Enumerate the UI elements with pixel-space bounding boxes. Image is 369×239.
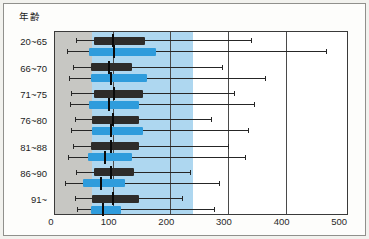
whisker-cap — [228, 144, 229, 149]
box-blue — [91, 206, 122, 214]
whisker-cap — [68, 155, 69, 160]
median-tick — [108, 61, 110, 74]
category-label: 66~70 — [7, 63, 47, 74]
gridline — [228, 32, 229, 214]
whisker-cap — [65, 181, 66, 186]
whisker-cap — [73, 65, 74, 70]
whisker-cap — [245, 155, 246, 160]
median-tick — [110, 140, 112, 153]
category-label: 86~90 — [7, 168, 47, 179]
box-black — [94, 90, 144, 98]
whisker-cap — [248, 128, 249, 133]
whisker-cap — [222, 65, 223, 70]
median-tick — [110, 72, 112, 85]
whisker-cap — [75, 196, 76, 201]
median-tick — [113, 45, 115, 58]
category-label: 91~ — [7, 194, 47, 205]
category-label: 71~75 — [7, 89, 47, 100]
median-tick — [110, 124, 112, 137]
box-blue — [89, 48, 156, 56]
box-blue — [89, 101, 139, 109]
category-label: 20~65 — [7, 36, 47, 47]
whisker-cap — [67, 49, 68, 54]
x-tick-label: 0 — [48, 216, 53, 227]
median-tick — [113, 87, 115, 100]
x-tick-label: 200 — [158, 216, 174, 227]
category-label: 81~88 — [7, 142, 47, 153]
whisker-cap — [234, 91, 235, 96]
whisker-cap — [214, 207, 215, 212]
whisker-cap — [76, 38, 77, 43]
whisker-cap — [265, 76, 266, 81]
figure-frame: 年齢 20~6566~7071~7576~8081~8886~9091~0100… — [3, 3, 366, 236]
gridline — [286, 32, 287, 214]
whisker-cap — [211, 117, 212, 122]
whisker-cap — [182, 196, 183, 201]
figure: 年齢 20~6566~7071~7576~8081~8886~9091~0100… — [0, 0, 369, 239]
whisker-cap — [73, 144, 74, 149]
median-tick — [112, 113, 114, 126]
median-tick — [110, 166, 112, 179]
whisker-cap — [326, 49, 327, 54]
box-black — [92, 116, 138, 124]
plot-area — [54, 31, 348, 215]
median-tick — [102, 203, 104, 216]
median-tick — [104, 151, 106, 164]
median-tick — [108, 98, 110, 111]
whisker-cap — [69, 76, 70, 81]
y-axis-title: 年齢 — [19, 9, 40, 23]
whisker-cap — [71, 128, 72, 133]
gridline — [170, 32, 171, 214]
box-blue — [83, 179, 125, 187]
x-tick-label: 500 — [331, 216, 347, 227]
whisker-cap — [251, 38, 252, 43]
median-tick — [112, 192, 114, 205]
whisker-cap — [76, 170, 77, 175]
x-tick-label: 300 — [216, 216, 232, 227]
box-blue — [88, 153, 132, 161]
box-black — [92, 195, 138, 203]
whisker-cap — [190, 170, 191, 175]
box-black — [94, 37, 146, 45]
box-black — [94, 168, 134, 176]
whisker-cap — [219, 181, 220, 186]
whisker-cap — [77, 207, 78, 212]
whisker-cap — [70, 102, 71, 107]
category-label: 76~80 — [7, 115, 47, 126]
whisker-cap — [254, 102, 255, 107]
whisker-cap — [71, 91, 72, 96]
x-tick-label: 100 — [101, 216, 117, 227]
box-black — [91, 142, 139, 150]
whisker-cap — [75, 117, 76, 122]
median-tick — [100, 177, 102, 190]
x-tick-label: 400 — [274, 216, 290, 227]
box-blue — [91, 74, 147, 82]
box-blue — [92, 127, 143, 135]
box-black — [91, 63, 133, 71]
